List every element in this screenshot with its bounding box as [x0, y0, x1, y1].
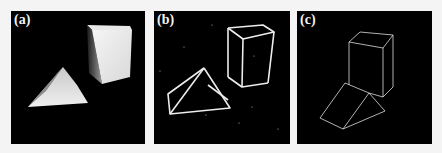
line-drawing — [297, 11, 432, 144]
panel-c-label: (c) — [300, 12, 316, 28]
panel-b-label: (b) — [157, 12, 174, 28]
edge-map-drawing — [154, 11, 290, 144]
panel-a-label: (a) — [14, 12, 30, 28]
photo-box-and-prism-image — [11, 11, 145, 144]
panel-b-edge-map: (b) — [154, 11, 290, 144]
panel-c-line-drawing: (c) — [297, 11, 432, 144]
panel-a-photograph: (a) — [11, 11, 145, 144]
